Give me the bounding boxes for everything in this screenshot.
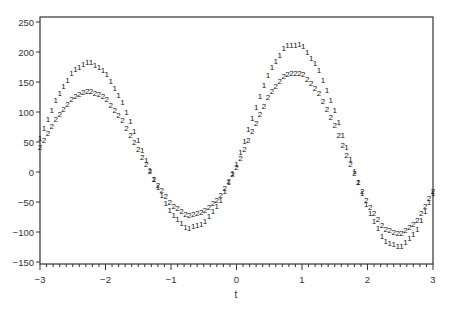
- x-tick-label: −3: [35, 274, 46, 285]
- series-1-marker: 1: [128, 117, 133, 126]
- x-tick-label: 0: [234, 274, 239, 285]
- series-1-marker: 1: [325, 86, 330, 95]
- series-2-marker: 2: [254, 119, 259, 128]
- y-tick-label: −100: [13, 227, 34, 238]
- series-1-marker: 1: [321, 76, 326, 85]
- x-axis-title: t: [235, 289, 238, 300]
- series-2-marker: 2: [242, 145, 247, 154]
- series-1-marker: 1: [266, 71, 271, 80]
- y-tick-label: −50: [18, 197, 34, 208]
- series-1-marker: 1: [329, 96, 334, 105]
- series-2-marker: 2: [352, 169, 357, 178]
- series-2-marker: 2: [356, 178, 361, 187]
- y-tick-label: 0: [29, 167, 34, 178]
- series-1-marker: 1: [336, 118, 341, 127]
- series-2-marker: 2: [344, 151, 349, 160]
- x-tick-label: −1: [166, 274, 177, 285]
- series-2-marker: 2: [360, 187, 365, 196]
- y-tick-label: 150: [18, 77, 34, 88]
- series-2-marker: 2: [262, 102, 267, 111]
- series-2-marker: 2: [250, 127, 255, 136]
- series-1-marker: 1: [136, 136, 141, 145]
- series-1-marker: 1: [124, 108, 129, 117]
- series-2-marker: 2: [246, 136, 251, 145]
- series-2-marker: 2: [336, 131, 341, 140]
- plot-frame: [40, 17, 433, 264]
- y-tick-label: 250: [18, 17, 34, 28]
- series-1-marker: 1: [317, 66, 322, 75]
- series-1-marker: 1: [340, 131, 345, 140]
- y-tick-label: 100: [18, 107, 34, 118]
- x-tick-label: −2: [100, 274, 111, 285]
- series-2-marker: 2: [238, 154, 243, 163]
- series-1-marker: 1: [333, 106, 338, 115]
- y-tick-label: −150: [13, 257, 34, 268]
- series-2-marker: 2: [333, 121, 338, 130]
- series-1-marker: 1: [120, 98, 125, 107]
- series-2-marker: 2: [348, 160, 353, 169]
- series-2-marker: 2: [234, 163, 239, 172]
- x-tick-label: 1: [299, 274, 304, 285]
- series-2-marker: 2: [340, 141, 345, 150]
- series-2-marker: 2: [431, 187, 436, 196]
- y-axis: 250200150100500−50−100−150: [13, 17, 40, 268]
- series-1-marker: 1: [50, 106, 55, 115]
- x-tick-label: 3: [430, 274, 435, 285]
- line-chart: 250200150100500−50−100−150 −3−2−10123 11…: [0, 0, 450, 315]
- series-1-marker: 1: [258, 92, 263, 101]
- y-tick-label: 200: [18, 47, 34, 58]
- series-2-marker: 2: [258, 110, 263, 119]
- series-1-marker: 1: [415, 225, 420, 234]
- series-1-marker: 1: [132, 127, 137, 136]
- y-tick-label: 50: [23, 137, 34, 148]
- x-axis: −3−2−10123: [35, 264, 436, 285]
- data-markers: 1111111111111111111111111111111111111111…: [38, 40, 436, 251]
- series-1-marker: 1: [262, 81, 267, 90]
- x-tick-label: 2: [365, 274, 370, 285]
